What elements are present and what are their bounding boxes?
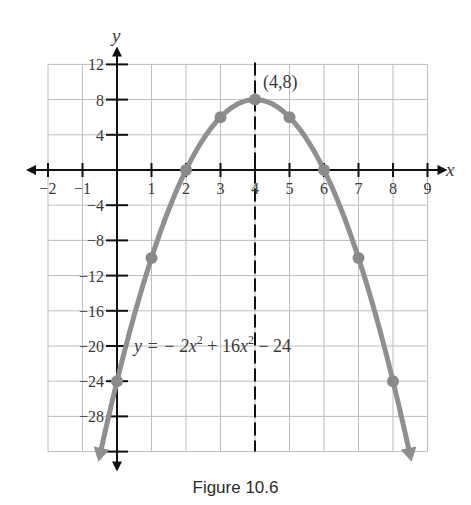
x-tick-label: 4: [251, 180, 259, 197]
equation-label: y = − 2x2 + 16x2 − 24: [132, 333, 291, 356]
data-point: [146, 252, 158, 264]
x-tick-label: 1: [148, 180, 156, 197]
x-tick-label: −2: [39, 180, 56, 197]
annotation-labels: y x (4,8) y = − 2x2 + 16x2 − 24: [110, 25, 455, 356]
x-tick-label: 6: [320, 180, 328, 197]
y-tick-label: 8: [96, 92, 104, 109]
x-tick-label: 2: [182, 180, 190, 197]
data-point: [318, 164, 330, 176]
y-tick-label: −28: [79, 408, 104, 425]
tick-labels: −2−11234567891284−4−8−12−16−20−24−28: [39, 56, 431, 451]
x-tick-label: 3: [217, 180, 225, 197]
parabola-graph: −2−11234567891284−4−8−12−16−20−24−28 y x…: [0, 0, 471, 505]
data-point: [353, 252, 365, 264]
y-tick-label: −16: [79, 303, 104, 320]
y-tick-label: −12: [79, 268, 104, 285]
y-tick-label: −24: [79, 373, 104, 390]
grid-lines: [48, 64, 428, 451]
curve-left-arrow-icon: [94, 446, 110, 461]
x-tick-label: −1: [74, 180, 91, 197]
y-axis-label: y: [110, 25, 121, 46]
y-axis-up-arrow-icon: [112, 46, 122, 56]
data-point: [284, 111, 296, 123]
equation-lhs: y = − 2: [132, 336, 189, 356]
equation-x1: x: [188, 336, 197, 356]
y-tick-label: −8: [87, 232, 104, 249]
curve-right-arrow-icon: [401, 446, 417, 461]
data-point: [215, 111, 227, 123]
vertex-label: (4,8): [263, 72, 298, 93]
x-tick-label: 7: [355, 180, 363, 197]
x-tick-label: 9: [424, 180, 432, 197]
data-point: [180, 164, 192, 176]
y-axis-down-arrow-icon: [112, 462, 122, 472]
equation-mid: + 16: [203, 336, 240, 356]
y-tick-label: 4: [96, 127, 104, 144]
data-point: [387, 375, 399, 387]
y-tick-label: −20: [79, 338, 104, 355]
equation-x2: x: [239, 336, 248, 356]
figure-caption: Figure 10.6: [0, 478, 471, 498]
x-axis-left-arrow-icon: [26, 165, 36, 175]
x-axis-label: x: [445, 159, 455, 180]
x-tick-label: 8: [389, 180, 397, 197]
equation-rhs: − 24: [254, 336, 291, 356]
y-tick-label: 12: [88, 56, 104, 73]
x-tick-label: 5: [286, 180, 294, 197]
data-point: [249, 94, 261, 106]
y-tick-label: −4: [87, 197, 104, 214]
data-point: [111, 375, 123, 387]
